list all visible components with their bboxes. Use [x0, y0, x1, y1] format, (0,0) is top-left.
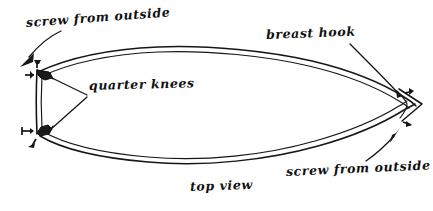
arrow-screw-top-shaft: [29, 31, 61, 57]
hull-outer-upper-line: [38, 47, 416, 106]
leader-breast-hook: [350, 44, 398, 93]
label-top-view: top view: [190, 179, 253, 194]
screw-tick-upper-knee: [25, 71, 34, 79]
arrow-screw-bottom-head: [390, 128, 400, 143]
arrow-screw-bottom-shaft: [366, 136, 394, 161]
leader-quarter-knee-lower: [50, 97, 87, 130]
hull-outer-lower-line: [40, 104, 415, 164]
screw-tick-upper-left: [34, 60, 41, 68]
hull-inner-lower-line: [42, 101, 407, 159]
label-quarter-knees: quarter knees: [89, 77, 195, 92]
screw-tick-lower-knee: [22, 127, 34, 135]
boat-hull-sketch: screw from outside quarter knees breast …: [0, 0, 433, 211]
arrow-screw-top-head: [20, 53, 34, 67]
screw-tick-lower-left: [28, 139, 36, 148]
breast-hook-wedge: [399, 89, 422, 121]
screw-tick-bow-lower: [403, 121, 412, 127]
transom-line: [36, 70, 37, 134]
transom-inner-line: [41, 76, 42, 128]
leader-quarter-knee-upper: [52, 78, 87, 95]
